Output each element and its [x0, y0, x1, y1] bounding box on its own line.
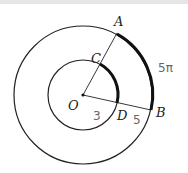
label-D: D — [116, 108, 128, 123]
annotation-OD: 3 — [93, 109, 101, 123]
annotation-arc-AB: 5π — [158, 61, 173, 75]
arc-CD — [100, 64, 118, 103]
label-B: B — [155, 105, 166, 120]
annotation-DB: 5 — [133, 113, 141, 127]
arc-AB — [117, 34, 153, 110]
label-O: O — [68, 98, 79, 113]
diagram-canvas: A B C D O 5π 3 5 — [0, 0, 188, 173]
label-C: C — [91, 51, 101, 66]
label-A: A — [113, 14, 123, 29]
center-point — [81, 93, 84, 96]
